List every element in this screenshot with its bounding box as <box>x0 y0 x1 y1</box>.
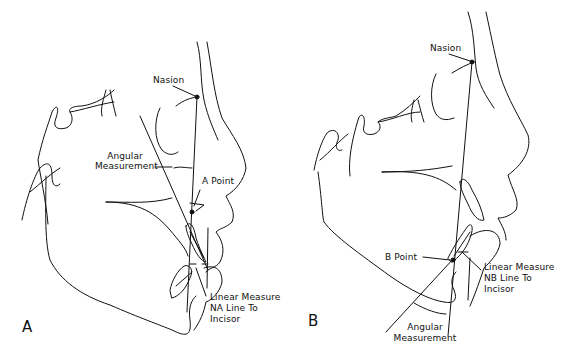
na-line-a <box>187 97 197 312</box>
label-linear-a-line2: NA Line To <box>210 303 258 314</box>
cephalometric-figure: Nasion Angular Measurement A Point Linea… <box>0 0 562 350</box>
label-linear-a-line3: Incisor <box>210 314 240 325</box>
label-a-point: A Point <box>202 176 234 187</box>
label-b-point: B Point <box>385 252 417 263</box>
label-nasion-b: Nasion <box>430 43 461 54</box>
label-linear-b-line2: NB Line To <box>484 273 532 284</box>
panel-letter-b: B <box>308 312 318 330</box>
tracing-drawing <box>0 0 562 350</box>
incisor-axis-a <box>140 116 208 270</box>
incisor-axis-b <box>386 258 454 332</box>
label-angular-a-line2: Measurement <box>95 161 155 172</box>
label-angular-b-line1: Angular <box>390 322 460 333</box>
label-linear-a-line1: Linear Measure <box>210 292 280 303</box>
panel-a-tracing <box>22 42 246 334</box>
panel-letter-a: A <box>22 318 32 336</box>
soft-tissue-profile-b <box>486 12 529 240</box>
label-angular-b-line2: Measurement <box>390 333 460 344</box>
label-linear-b-line1: Linear Measure <box>484 262 554 273</box>
soft-tissue-profile-a <box>206 42 246 272</box>
label-nasion-a: Nasion <box>153 75 184 86</box>
label-linear-b-line3: Incisor <box>484 284 514 295</box>
